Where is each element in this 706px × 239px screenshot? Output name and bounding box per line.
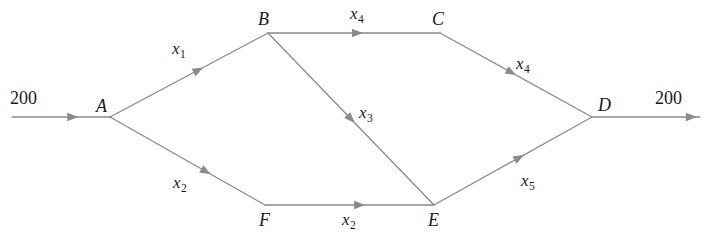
edges-group [12, 33, 700, 205]
edge-label-B-E: x3 [359, 104, 372, 121]
node-label-D: D [598, 96, 611, 114]
network-graph-canvas [0, 0, 706, 239]
arrow-head-D-out [686, 113, 697, 121]
node-label-B: B [258, 10, 269, 28]
arrow-heads-group [67, 29, 697, 209]
flow-label-outflow: 200 [655, 89, 682, 107]
edge-label-E-D: x5 [521, 172, 534, 189]
node-label-F: F [259, 211, 270, 229]
arrow-head-A-F [199, 165, 211, 174]
edge-A-F [110, 117, 265, 205]
edge-label-A-B: x1 [172, 40, 185, 57]
arrow-head-A-B [192, 67, 204, 76]
arrow-head-C-D [505, 66, 517, 75]
edge-A-B [110, 33, 268, 117]
arrow-head-F-E [354, 201, 365, 209]
node-label-A: A [96, 97, 107, 115]
arrow-head-in-A [67, 113, 78, 121]
edge-label-C-D: x4 [516, 55, 529, 72]
edge-label-A-F: x2 [173, 174, 186, 191]
arrow-head-E-D [512, 155, 524, 164]
node-label-C: C [432, 10, 444, 28]
arrow-head-B-C [352, 29, 363, 37]
edge-label-F-E: x2 [342, 211, 355, 228]
edge-E-D [434, 117, 592, 205]
flow-label-inflow: 200 [10, 89, 37, 107]
network-flow-diagram: ABCDEF x1x4x4x3x2x2x5 200200 [0, 0, 706, 239]
node-label-E: E [428, 211, 439, 229]
edge-label-B-C: x4 [350, 5, 363, 22]
